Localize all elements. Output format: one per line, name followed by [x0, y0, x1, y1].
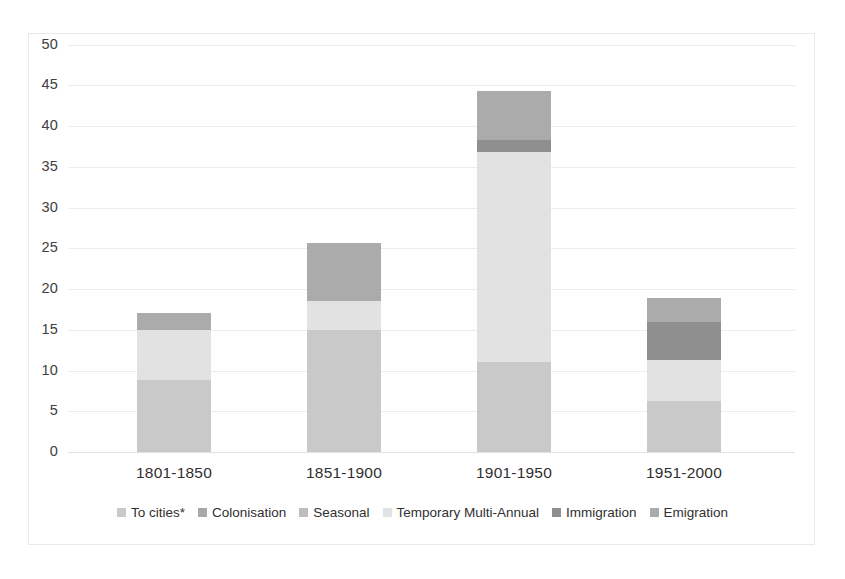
stacked-bar-chart: 504540353025201510501801-18501851-190019… — [0, 0, 845, 579]
y-axis-tick-label: 50 — [24, 36, 58, 52]
bar-segment-emigration — [137, 313, 211, 329]
y-axis-tick-label: 20 — [24, 280, 58, 296]
bar-1851-1900 — [307, 0, 381, 452]
x-axis-label: 1851-1900 — [254, 464, 434, 482]
legend-swatch-icon — [198, 508, 207, 517]
y-axis-tick-label: 25 — [24, 239, 58, 255]
bar-1801-1850 — [137, 0, 211, 452]
legend-item[interactable]: To cities* — [117, 505, 185, 520]
legend-label: To cities* — [131, 505, 185, 520]
chart-legend: To cities*ColonisationSeasonalTemporary … — [0, 505, 845, 520]
bar-segment-to-cities — [477, 362, 551, 452]
legend-swatch-icon — [383, 508, 392, 517]
bar-1901-1950 — [477, 0, 551, 452]
bar-segment-emigration — [477, 91, 551, 140]
bar-segment-to-cities — [137, 380, 211, 452]
legend-label: Immigration — [566, 505, 637, 520]
x-axis-label: 1951-2000 — [594, 464, 774, 482]
bar-segment-to-cities — [307, 330, 381, 452]
legend-label: Temporary Multi-Annual — [397, 505, 540, 520]
y-axis-tick-label: 35 — [24, 158, 58, 174]
legend-swatch-icon — [117, 508, 126, 517]
y-axis-tick-label: 5 — [24, 402, 58, 418]
legend-item[interactable]: Temporary Multi-Annual — [383, 505, 540, 520]
legend-swatch-icon — [650, 508, 659, 517]
bar-segment-temporary-multi-annual — [477, 152, 551, 362]
bar-segment-immigration — [477, 140, 551, 152]
legend-item[interactable]: Emigration — [650, 505, 729, 520]
y-axis-tick-label: 30 — [24, 199, 58, 215]
legend-label: Seasonal — [313, 505, 369, 520]
bar-segment-temporary-multi-annual — [137, 330, 211, 381]
legend-swatch-icon — [552, 508, 561, 517]
legend-swatch-icon — [299, 508, 308, 517]
x-axis-label: 1801-1850 — [84, 464, 264, 482]
y-axis-tick-label: 0 — [24, 443, 58, 459]
bar-segment-temporary-multi-annual — [647, 360, 721, 401]
legend-label: Emigration — [664, 505, 729, 520]
bar-segment-emigration — [307, 243, 381, 301]
bar-segment-temporary-multi-annual — [307, 301, 381, 330]
bar-segment-emigration — [647, 298, 721, 322]
legend-item[interactable]: Colonisation — [198, 505, 286, 520]
x-axis-line — [68, 452, 795, 453]
bar-segment-to-cities — [647, 401, 721, 452]
bar-segment-immigration — [647, 322, 721, 359]
y-axis-tick-label: 40 — [24, 117, 58, 133]
legend-item[interactable]: Immigration — [552, 505, 637, 520]
y-axis-tick-label: 45 — [24, 76, 58, 92]
legend-item[interactable]: Seasonal — [299, 505, 369, 520]
x-axis-label: 1901-1950 — [424, 464, 604, 482]
bar-1951-2000 — [647, 0, 721, 452]
y-axis-tick-label: 15 — [24, 321, 58, 337]
legend-label: Colonisation — [212, 505, 286, 520]
y-axis-tick-label: 10 — [24, 362, 58, 378]
